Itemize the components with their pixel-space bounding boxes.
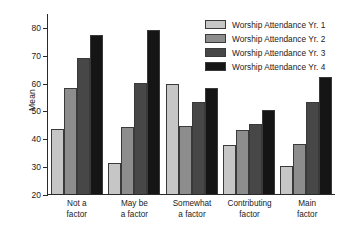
- y-tick-label: 70: [32, 52, 41, 61]
- bar: [205, 88, 218, 194]
- y-tick-mark: [43, 195, 47, 196]
- x-category-label: Mainfactor: [278, 199, 336, 220]
- legend-swatch: [205, 48, 226, 57]
- chart-legend: Worship Attendance Yr. 1Worship Attendan…: [205, 18, 325, 74]
- y-tick-label: 30: [32, 163, 41, 172]
- legend-swatch: [205, 62, 226, 71]
- x-category-label: May bea factor: [106, 199, 164, 220]
- x-category-label: Somewhata factor: [163, 199, 221, 220]
- legend-item[interactable]: Worship Attendance Yr. 3: [205, 46, 325, 59]
- bar: [280, 166, 293, 194]
- y-tick-mark: [43, 28, 47, 29]
- y-tick-label: 50: [32, 107, 41, 116]
- bar: [249, 124, 262, 194]
- bar-chart: Mean 20304050607080 Not afactorMay bea f…: [0, 0, 343, 250]
- bar: [147, 30, 160, 194]
- x-category-label: Not afactor: [48, 199, 106, 220]
- bar: [262, 110, 275, 194]
- bar: [223, 145, 236, 194]
- bar: [293, 144, 306, 194]
- y-tick-mark: [43, 111, 47, 112]
- bar: [51, 129, 64, 194]
- y-tick-label: 40: [32, 135, 41, 144]
- y-tick-label: 20: [32, 191, 41, 200]
- bar: [192, 102, 205, 194]
- bar-group: [48, 14, 105, 194]
- bar: [179, 126, 192, 194]
- bar: [236, 130, 249, 194]
- bar: [90, 35, 103, 194]
- x-axis-spine: [47, 194, 335, 195]
- legend-label: Worship Attendance Yr. 2: [232, 34, 325, 44]
- bar: [108, 163, 121, 194]
- y-tick-label: 80: [32, 24, 41, 33]
- y-tick-label: 60: [32, 79, 41, 88]
- legend-item[interactable]: Worship Attendance Yr. 1: [205, 18, 325, 31]
- bar: [77, 58, 90, 194]
- legend-swatch: [205, 34, 226, 43]
- bar: [134, 83, 147, 194]
- y-tick-mark: [43, 167, 47, 168]
- y-tick-mark: [43, 56, 47, 57]
- bar: [166, 84, 179, 194]
- x-axis-category-labels: Not afactorMay bea factorSomewhata facto…: [48, 199, 336, 220]
- legend-label: Worship Attendance Yr. 3: [232, 48, 325, 58]
- bar: [306, 102, 319, 194]
- bar: [121, 127, 134, 194]
- bar-group: [105, 14, 162, 194]
- legend-item[interactable]: Worship Attendance Yr. 2: [205, 32, 325, 45]
- bar: [64, 88, 77, 194]
- bar: [319, 77, 332, 194]
- x-category-label: Contributingfactor: [221, 199, 279, 220]
- y-tick-mark: [43, 139, 47, 140]
- legend-item[interactable]: Worship Attendance Yr. 4: [205, 60, 325, 73]
- legend-label: Worship Attendance Yr. 1: [232, 20, 325, 30]
- y-tick-mark: [43, 84, 47, 85]
- legend-swatch: [205, 20, 226, 29]
- legend-label: Worship Attendance Yr. 4: [232, 62, 325, 72]
